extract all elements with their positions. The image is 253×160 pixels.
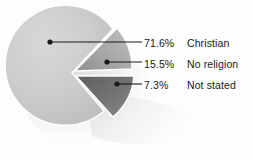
legend-row-not-stated[interactable]: 7.3% Not stated (144, 78, 236, 92)
legend-label-no-religion: No religion (187, 58, 238, 70)
legend-percent-christian: 71.6% (144, 37, 182, 49)
legend-percent-no-religion: 15.5% (144, 58, 182, 70)
pie-chart-figure: 71.6% Christian 15.5% No religion 7.3% N… (0, 0, 253, 160)
legend-row-christian[interactable]: 71.6% Christian (144, 36, 229, 50)
legend-percent-not-stated: 7.3% (144, 79, 182, 91)
legend-row-no-religion[interactable]: 15.5% No religion (144, 57, 238, 71)
legend-label-not-stated: Not stated (187, 79, 236, 91)
legend-label-christian: Christian (187, 37, 229, 49)
